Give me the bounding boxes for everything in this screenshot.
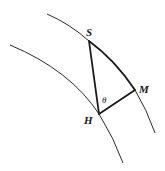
point-label-s: S xyxy=(86,26,92,38)
point-label-h: H xyxy=(83,114,93,126)
point-label-m: M xyxy=(138,83,150,95)
outer-arc-lower xyxy=(135,90,155,133)
outer-arc xyxy=(47,14,89,41)
arc-segment-sm xyxy=(89,41,135,90)
geometry-diagram: S M H θ xyxy=(0,0,165,171)
angle-label-theta: θ xyxy=(102,95,107,105)
